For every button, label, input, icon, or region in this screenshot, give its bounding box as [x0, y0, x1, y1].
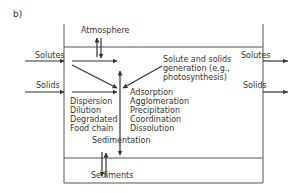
- panel-label: b): [13, 9, 22, 19]
- output-solids-arrowhead: [283, 90, 288, 94]
- svg-text:Dilution: Dilution: [70, 106, 101, 115]
- sediments-label: Sediments: [91, 171, 133, 180]
- svg-text:Adsorption: Adsorption: [130, 88, 173, 97]
- svg-text:Solute and solids: Solute and solids: [163, 55, 231, 64]
- svg-text:Food chain: Food chain: [70, 124, 113, 133]
- generation-arrow: [123, 66, 162, 88]
- svg-text:photosynthesis): photosynthesis): [163, 73, 227, 82]
- svg-text:Dissolution: Dissolution: [130, 124, 174, 133]
- input-solids-label: Solids: [36, 81, 60, 90]
- sedimentation-label: Sedimentation: [92, 136, 150, 145]
- svg-text:Precipitation: Precipitation: [130, 106, 180, 115]
- solutes-to-solids-arrow: [72, 65, 117, 88]
- left-process-list: Dispersion Dilution Degradated Food chai…: [70, 97, 117, 133]
- svg-text:Agglomeration: Agglomeration: [130, 97, 189, 106]
- atmosphere-label: Atmosphere: [81, 26, 130, 35]
- svg-text:Dispersion: Dispersion: [70, 97, 112, 106]
- output-solutes-arrowhead: [283, 59, 288, 63]
- svg-text:Coordination: Coordination: [130, 115, 181, 124]
- generation-label: Solute and solids generation (e.g., phot…: [163, 55, 231, 82]
- svg-text:Degradated: Degradated: [70, 115, 117, 124]
- input-solutes-label: Solutes: [35, 51, 65, 60]
- water-compartment-diagram: b) Atmosphere Solutes Solids Solute and …: [0, 0, 288, 193]
- atmosphere-exchange-arrows: [97, 38, 101, 58]
- output-solutes-label: Solutes: [241, 51, 271, 60]
- output-solids-label: Solids: [243, 81, 267, 90]
- right-process-list: Adsorption Agglomeration Precipitation C…: [130, 88, 189, 133]
- svg-text:generation (e.g.,: generation (e.g.,: [163, 64, 230, 73]
